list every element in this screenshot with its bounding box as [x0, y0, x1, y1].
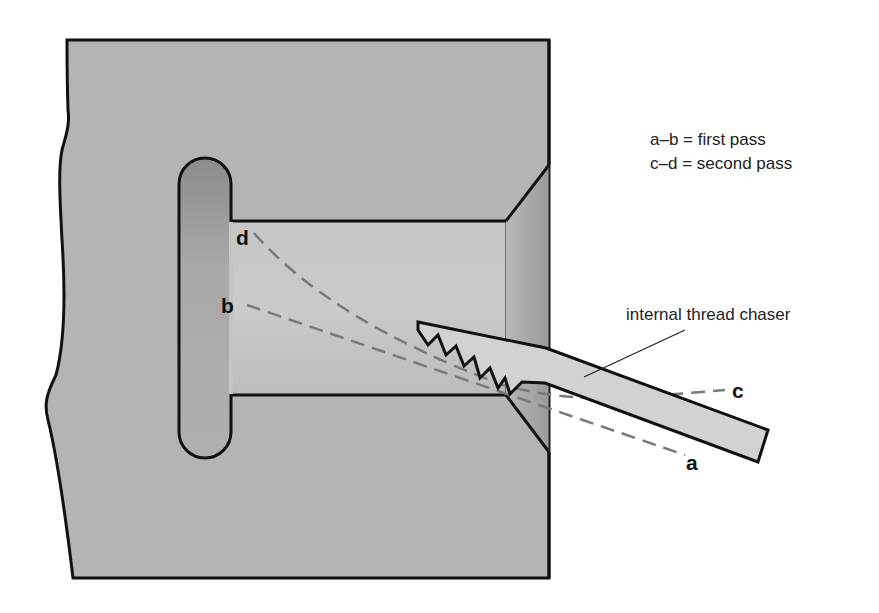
legend: a–b = first pass c–d = second pass — [650, 128, 792, 176]
label-c: c — [732, 380, 744, 401]
callout-label: internal thread chaser — [626, 305, 790, 325]
label-d: d — [236, 227, 249, 248]
label-a: a — [686, 452, 698, 473]
legend-first-pass: a–b = first pass — [650, 128, 792, 152]
legend-second-pass: c–d = second pass — [650, 152, 792, 176]
diagram-canvas: a–b = first pass c–d = second pass d b c… — [0, 0, 879, 613]
callout-leader — [584, 330, 685, 377]
label-b: b — [221, 295, 234, 316]
